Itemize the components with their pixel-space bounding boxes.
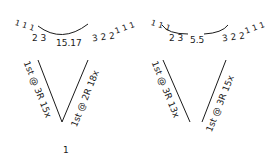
- left-v-bottom-label: 1: [63, 146, 69, 155]
- right-top-left-counts: 2 3: [169, 34, 183, 43]
- knitting-diagram: 1 1 1 2 3 15.17 3 2 2 1 1 1 1st @ 3R 15x…: [0, 0, 273, 166]
- left-top-center-value: 15.17: [56, 39, 82, 48]
- right-top-center-value: 5.5: [190, 36, 204, 45]
- left-top-left-counts: 2 3: [32, 34, 46, 43]
